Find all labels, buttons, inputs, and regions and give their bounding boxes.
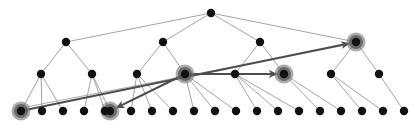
tree-node-L3-1[interactable] <box>38 107 46 115</box>
tree-node-L3-11[interactable] <box>232 107 240 115</box>
tree-edge <box>66 13 211 42</box>
tree-node-L2-0[interactable] <box>37 70 45 78</box>
tree-node-L3-18[interactable] <box>379 107 387 115</box>
tree-node-L3-15[interactable] <box>316 107 324 115</box>
tree-node-L3-10[interactable] <box>211 107 219 115</box>
tree-node-L3-14[interactable] <box>295 107 303 115</box>
tree-node-L3-17[interactable] <box>358 107 366 115</box>
tree-edge <box>284 74 341 111</box>
tree-node-L1-1[interactable] <box>159 38 167 46</box>
tree-edge <box>211 13 260 42</box>
tree-node-L3-5[interactable] <box>106 107 114 115</box>
tree-node-L2-7[interactable] <box>375 70 383 78</box>
tree-node-L1-0[interactable] <box>62 38 70 46</box>
tree-node-L3-19[interactable] <box>400 107 408 115</box>
tree-node-L3-6[interactable] <box>127 107 135 115</box>
tree-node-L3-12[interactable] <box>253 107 261 115</box>
tree-node-L1-3[interactable] <box>352 38 360 46</box>
tree-node-L2-2[interactable] <box>133 70 141 78</box>
tree-node-L3-13[interactable] <box>274 107 282 115</box>
tree-edge <box>84 74 92 111</box>
tree-edges-group <box>21 13 404 111</box>
tree-node-L3-0[interactable] <box>17 107 25 115</box>
tree-node-root[interactable] <box>207 9 215 17</box>
tree-edge <box>66 42 92 74</box>
tree-edge <box>137 42 163 74</box>
tree-node-L3-7[interactable] <box>148 107 156 115</box>
tree-edge <box>131 74 137 111</box>
tree-edge <box>235 74 257 111</box>
tree-node-L3-2[interactable] <box>59 107 67 115</box>
tree-edge <box>235 74 278 111</box>
tree-edge <box>41 74 42 111</box>
tree-node-L2-1[interactable] <box>88 70 96 78</box>
tree-node-L2-6[interactable] <box>327 70 335 78</box>
tree-edge <box>379 74 404 111</box>
tree-node-L3-16[interactable] <box>337 107 345 115</box>
tree-node-L2-5[interactable] <box>280 70 288 78</box>
tree-node-L3-8[interactable] <box>169 107 177 115</box>
tree-node-L2-3[interactable] <box>181 70 189 78</box>
tree-node-L3-3[interactable] <box>80 107 88 115</box>
tree-node-L2-4[interactable] <box>231 70 239 78</box>
tree-diagram-canvas <box>0 0 417 129</box>
tree-edge <box>235 42 260 74</box>
tree-node-L3-9[interactable] <box>190 107 198 115</box>
tree-edge <box>211 13 356 42</box>
tree-edge <box>41 42 66 74</box>
tree-node-L1-2[interactable] <box>256 38 264 46</box>
tree-diagram-figure <box>0 0 417 129</box>
